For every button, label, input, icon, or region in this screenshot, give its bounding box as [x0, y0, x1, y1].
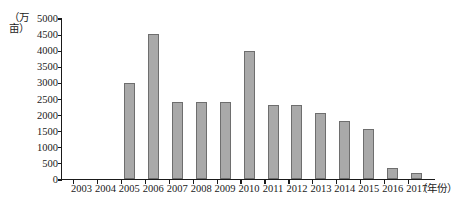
y-tick-mark — [58, 51, 63, 52]
y-tick-mark — [58, 18, 63, 19]
y-tick-label: 3000 — [37, 78, 58, 89]
bar — [387, 168, 398, 179]
y-axis-unit-label: （万亩） — [9, 13, 26, 34]
y-tick-label: 4500 — [37, 30, 58, 41]
y-tick-mark — [58, 131, 63, 132]
x-tick-label: 2014 — [334, 183, 355, 194]
y-tick-label: 3500 — [37, 62, 58, 73]
y-tick-label: 1000 — [37, 143, 58, 154]
y-tick-mark — [58, 179, 63, 180]
x-tick-label: 2004 — [95, 183, 116, 194]
x-tick-label: 2013 — [310, 183, 331, 194]
y-tick-label: 2000 — [37, 110, 58, 121]
bar — [339, 121, 350, 179]
bar — [291, 105, 302, 179]
x-tick-label: 2010 — [239, 183, 260, 194]
bar — [411, 173, 422, 179]
bar — [315, 113, 326, 179]
bar-chart: （万亩） 05001000150020002500300035004000450… — [0, 0, 469, 211]
bar — [244, 51, 255, 180]
y-tick-mark — [58, 99, 63, 100]
x-tick-label: 2008 — [191, 183, 212, 194]
y-tick-label: 1500 — [37, 126, 58, 137]
plot-area — [61, 19, 435, 180]
x-tick-label: 2003 — [71, 183, 92, 194]
y-tick-label: 4000 — [37, 46, 58, 57]
y-tick-label: 2500 — [37, 94, 58, 105]
y-tick-mark — [58, 35, 63, 36]
x-axis-unit-label: （年份） — [417, 183, 457, 194]
x-tick-label: 2016 — [382, 183, 403, 194]
y-tick-mark — [58, 83, 63, 84]
bar — [148, 34, 159, 179]
x-tick-label: 2009 — [215, 183, 236, 194]
x-tick-label: 2005 — [119, 183, 140, 194]
x-tick-label: 2012 — [286, 183, 307, 194]
y-tick-mark — [58, 115, 63, 116]
y-tick-mark — [58, 163, 63, 164]
x-tick-label: 2007 — [167, 183, 188, 194]
y-axis-tick-labels: 0500100015002000250030003500400045005000 — [26, 0, 58, 211]
bar — [220, 102, 231, 179]
y-tick-mark — [58, 67, 63, 68]
x-tick-label: 2006 — [143, 183, 164, 194]
y-tick-label: 5000 — [37, 14, 58, 25]
bar — [172, 102, 183, 179]
y-tick-mark — [58, 147, 63, 148]
y-tick-label: 500 — [42, 159, 58, 170]
bar — [124, 83, 135, 180]
bar — [196, 102, 207, 179]
x-axis-tick-labels: 2003200420052006200720082009201020112012… — [0, 183, 469, 197]
bar — [268, 105, 279, 179]
x-tick-label: 2011 — [263, 183, 284, 194]
x-tick-label: 2015 — [358, 183, 379, 194]
bar — [363, 129, 374, 179]
